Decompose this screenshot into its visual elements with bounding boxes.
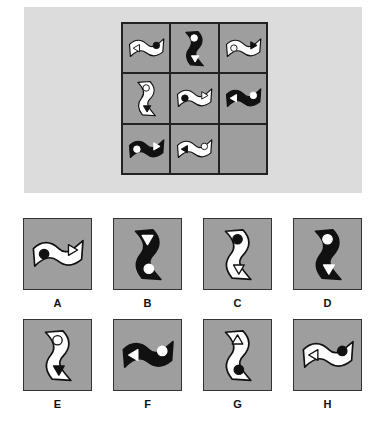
wavy-flag-icon — [24, 219, 91, 289]
wavy-flag-icon — [114, 219, 181, 289]
grid-cell — [122, 73, 170, 123]
wavy-flag-icon — [220, 74, 266, 122]
answer-option-e[interactable] — [23, 319, 92, 391]
answer-option-label: C — [203, 297, 272, 309]
grid-cell-empty — [219, 124, 267, 174]
wavy-flag-icon — [123, 125, 169, 173]
grid-cell — [122, 23, 170, 73]
answer-option-g[interactable] — [203, 319, 272, 391]
answer-option-label: B — [113, 297, 182, 309]
wavy-flag-icon — [220, 24, 266, 72]
answer-option-h[interactable] — [293, 319, 362, 391]
wavy-flag-icon — [123, 74, 169, 122]
answer-option-b[interactable] — [113, 218, 182, 290]
wavy-flag-icon — [294, 219, 361, 289]
wavy-flag-icon — [171, 24, 217, 72]
wavy-flag-icon — [294, 320, 361, 390]
answer-option-label: G — [203, 398, 272, 410]
puzzle-grid — [121, 22, 268, 175]
wavy-flag-icon — [114, 320, 181, 390]
answer-option-f[interactable] — [113, 319, 182, 391]
answer-option-c[interactable] — [203, 218, 272, 290]
grid-cell — [219, 23, 267, 73]
answer-option-label: H — [293, 398, 362, 410]
answer-option-a[interactable] — [23, 218, 92, 290]
wavy-flag-icon — [204, 320, 271, 390]
answer-option-label: E — [23, 398, 92, 410]
grid-cell — [170, 124, 218, 174]
wavy-flag-icon — [24, 320, 91, 390]
answer-option-label: A — [23, 297, 92, 309]
grid-cell — [122, 124, 170, 174]
answer-option-d[interactable] — [293, 218, 362, 290]
answer-option-label: F — [113, 398, 182, 410]
wavy-flag-icon — [123, 24, 169, 72]
grid-cell — [219, 73, 267, 123]
wavy-flag-icon — [204, 219, 271, 289]
wavy-flag-icon — [171, 74, 217, 122]
grid-cell — [170, 23, 218, 73]
answer-option-label: D — [293, 297, 362, 309]
grid-cell — [170, 73, 218, 123]
wavy-flag-icon — [171, 125, 217, 173]
